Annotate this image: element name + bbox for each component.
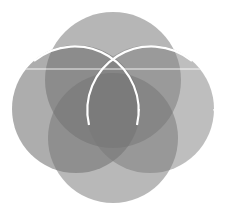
bottom-circle [48, 73, 178, 203]
venn-logo: Four overlapping translucent gray circle… [0, 0, 226, 214]
circle-group [12, 12, 214, 203]
venn-logo-graphic [0, 0, 226, 214]
